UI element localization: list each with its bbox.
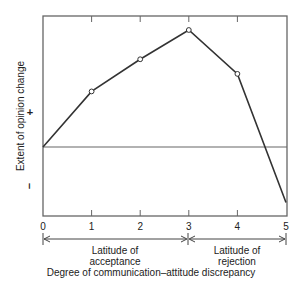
x-tick-label: 5 <box>283 221 289 232</box>
plot-frame <box>43 16 287 216</box>
data-series <box>43 28 286 203</box>
x-tick-label: 2 <box>137 221 143 232</box>
latitude-arrows <box>43 233 286 245</box>
rejection-label-line1: Latitude of <box>214 245 261 256</box>
data-point-marker <box>138 57 143 62</box>
data-point-marker <box>186 28 191 33</box>
opinion-change-chart: 012345 + – Extent of opinion change Lati… <box>0 0 303 289</box>
rejection-label-line2: rejection <box>218 256 256 267</box>
data-point-marker <box>89 89 94 94</box>
x-tick-label: 1 <box>89 221 95 232</box>
y-axis-title: Extent of opinion change <box>15 61 26 172</box>
x-tick-label: 4 <box>235 221 241 232</box>
x-tick-label: 3 <box>186 221 192 232</box>
acceptance-label-line2: acceptance <box>89 256 141 267</box>
data-point-marker <box>235 71 240 76</box>
acceptance-label-line1: Latitude of <box>92 245 139 256</box>
y-negative-label: – <box>24 183 36 189</box>
x-tick-label: 0 <box>40 221 46 232</box>
chart-canvas: 012345 + – Extent of opinion change Lati… <box>0 0 303 289</box>
y-positive-label: + <box>27 106 33 118</box>
x-axis-title: Degree of communication–attitude discrep… <box>47 267 255 278</box>
x-ticks <box>92 16 238 216</box>
x-tick-labels: 012345 <box>40 221 289 232</box>
series-line <box>43 30 286 203</box>
